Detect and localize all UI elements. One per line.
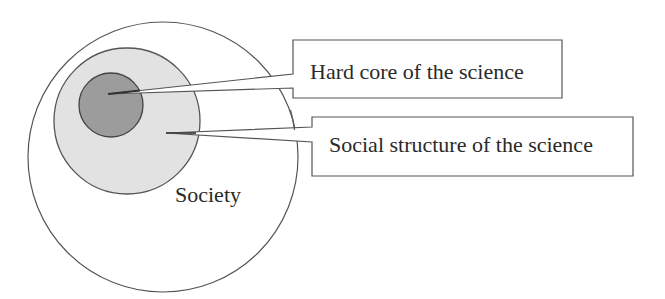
society-label: Society xyxy=(175,182,241,207)
social-structure-label: Social structure of the science xyxy=(329,132,593,157)
science-society-diagram: Hard core of the science Social structur… xyxy=(0,0,665,299)
hard-core-circle xyxy=(79,73,143,137)
diagram-canvas: Hard core of the science Social structur… xyxy=(0,0,665,299)
hard-core-label: Hard core of the science xyxy=(310,59,524,84)
